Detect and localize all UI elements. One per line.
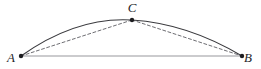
arc-a-c-b-curve: [21, 20, 242, 56]
geometry-figure: A B C: [0, 0, 261, 69]
chord-a-c-line: [21, 20, 132, 56]
chord-c-b-line: [132, 20, 242, 56]
point-c-label: C: [128, 0, 137, 15]
geometry-canvas: A B C: [0, 0, 261, 69]
point-b-label: B: [244, 50, 252, 65]
point-a-marker: [19, 54, 23, 58]
point-c-marker: [130, 18, 134, 22]
point-a-label: A: [6, 50, 15, 65]
